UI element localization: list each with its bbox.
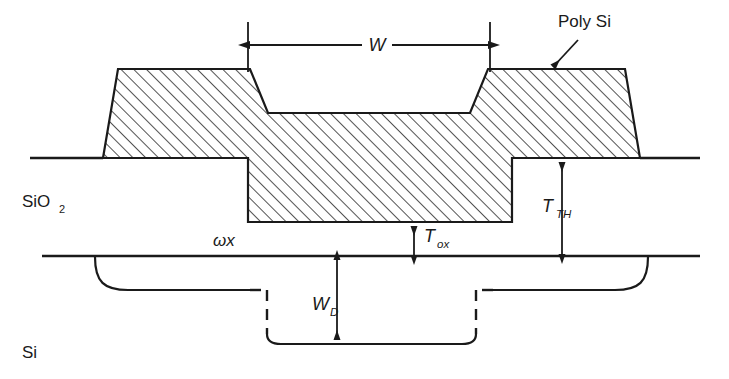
t-th-subscript: TH [556,208,572,220]
omega-x-label: ωx [213,231,235,250]
depletion-floor-left [267,334,380,344]
mos-cross-section-figure: W Poly Si SiO 2 Si ωx T ox T TH [0,0,729,379]
poly-si-label: Poly Si [558,12,611,31]
t-th-label: T [542,196,555,216]
w-d-dimension-group: W D [312,260,338,340]
sio2-subscript: 2 [59,203,65,215]
poly-si-annotation-group: Poly Si [553,12,611,67]
sio2-label: SiO [22,192,50,211]
poly-si-gate-outline [103,69,640,222]
depletion-curve-left [95,257,250,290]
w-dimension-group: W [248,22,490,72]
si-label: Si [22,343,37,362]
w-d-subscript: D [330,306,338,318]
depletion-boundary-right [380,257,648,344]
w-d-label: W [312,294,331,314]
poly-si-leader-arrow [553,40,578,67]
t-ox-subscript: ox [437,238,450,250]
t-th-dimension-group: T TH [542,162,572,254]
w-label: W [369,35,388,55]
t-ox-dimension-group: T ox [414,226,450,255]
t-ox-label: T [424,226,437,246]
depletion-curve-right [493,257,648,290]
poly-si-gate-region [103,69,640,222]
sio2-label-group: SiO 2 [22,192,65,215]
depletion-floor-right [380,334,476,344]
